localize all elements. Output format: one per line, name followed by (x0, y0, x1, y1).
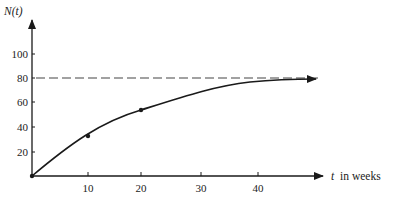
y-tick-label: 20 (17, 146, 29, 158)
x-tick-label: 30 (196, 182, 208, 194)
x-tick-label: 40 (253, 182, 265, 194)
y-tick-label: 80 (17, 72, 29, 84)
data-point (139, 108, 143, 112)
x-tick-label: 20 (136, 182, 148, 194)
x-ticks: 10 20 30 40 (83, 172, 265, 194)
y-tick-label: 60 (17, 96, 29, 108)
y-tick-label: 40 (17, 121, 29, 133)
data-point (30, 174, 34, 178)
data-point (86, 134, 90, 138)
chart: N(t) t in weeks 20 40 60 80 100 10 20 30… (0, 0, 396, 201)
y-axis-label: N(t) (3, 5, 23, 18)
x-axis-label: t in weeks (331, 170, 381, 182)
y-tick-label: 100 (12, 48, 29, 60)
x-tick-label: 10 (83, 182, 95, 194)
growth-curve (32, 79, 316, 176)
